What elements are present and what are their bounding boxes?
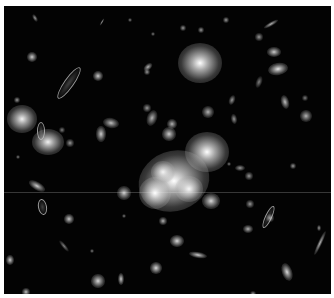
galaxy (159, 217, 167, 225)
galaxy (267, 47, 281, 57)
galaxy (144, 69, 150, 75)
galaxy (313, 230, 328, 255)
galaxy (255, 33, 263, 41)
galaxy (143, 104, 151, 112)
galaxy (16, 155, 20, 159)
galaxy (223, 17, 229, 23)
lensed-arc (37, 122, 45, 140)
galaxy (102, 117, 119, 130)
galaxy (202, 106, 214, 118)
galaxy (91, 274, 105, 288)
galaxy (254, 75, 264, 88)
galaxy (180, 25, 186, 31)
galaxy (128, 18, 132, 22)
galaxy (170, 235, 184, 247)
galaxy (290, 163, 296, 169)
galaxy (246, 200, 254, 208)
galaxy (99, 18, 105, 26)
galaxy (300, 110, 312, 122)
galaxy (243, 225, 253, 233)
galaxy (66, 139, 74, 147)
galaxy (122, 214, 126, 218)
lensed-arc (54, 65, 84, 102)
galaxy (31, 14, 38, 23)
galaxy (96, 126, 106, 142)
galaxy (250, 291, 256, 294)
galaxy (267, 61, 289, 76)
galaxy (151, 32, 155, 36)
galaxy (27, 52, 37, 62)
galaxy (202, 193, 220, 209)
galaxy (150, 262, 162, 274)
galaxy (59, 127, 65, 133)
galaxy (230, 114, 238, 125)
galaxy (198, 27, 204, 33)
galaxy (64, 214, 74, 224)
galaxy (227, 162, 231, 166)
galaxy (93, 71, 103, 81)
galaxy (22, 288, 30, 294)
galaxy (302, 95, 308, 101)
galaxy (58, 239, 70, 252)
galaxy (227, 94, 236, 105)
galaxy (118, 273, 124, 285)
galaxy (178, 43, 222, 83)
galaxy (117, 186, 131, 200)
galaxy (151, 161, 175, 183)
galaxy (189, 250, 208, 259)
galaxy (14, 97, 20, 103)
galaxy-cluster-image (4, 6, 331, 294)
galaxy (167, 119, 177, 129)
galaxy (90, 249, 94, 253)
galaxy (279, 94, 290, 110)
galaxy (263, 18, 279, 29)
lensed-arc (36, 198, 48, 215)
galaxy (162, 127, 176, 141)
galaxy (245, 172, 253, 180)
galaxy (7, 105, 37, 133)
galaxy (6, 255, 14, 265)
galaxy (175, 176, 203, 202)
galaxy (317, 225, 321, 231)
galaxy (279, 262, 295, 282)
galaxy (235, 165, 245, 171)
